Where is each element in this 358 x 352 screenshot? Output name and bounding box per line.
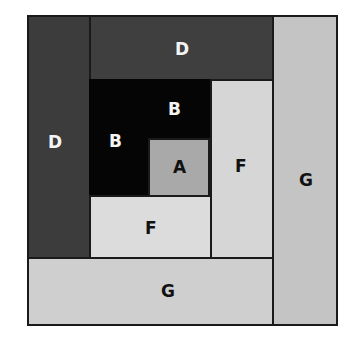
label-b-left: B — [109, 133, 122, 150]
label-d-left: D — [48, 134, 62, 151]
label-f-right: F — [235, 158, 247, 175]
label-f-bottom: F — [145, 220, 157, 237]
label-d-top: D — [175, 41, 189, 58]
label-b-top: B — [168, 101, 181, 118]
piece-g-bottom — [27, 257, 274, 326]
label-a: A — [173, 159, 186, 176]
label-g-bottom: G — [161, 283, 175, 300]
quilt-block: D D B B A F F G G — [27, 15, 338, 326]
label-g-right: G — [299, 172, 313, 189]
